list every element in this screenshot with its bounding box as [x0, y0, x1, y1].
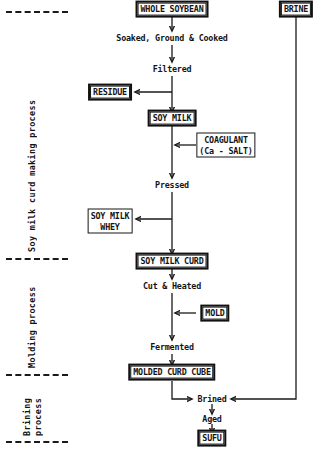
node-soy-milk: SOY MILK — [150, 112, 195, 125]
node-mold: MOLD — [202, 307, 227, 320]
node-whole-soybean: WHOLE SOYBEAN — [138, 3, 207, 16]
node-fermented: Fermented — [150, 343, 194, 352]
node-soy-milk-curd: SOY MILK CURD — [138, 255, 207, 268]
node-soy-milk-whey-line1: SOY MILK — [91, 211, 130, 222]
node-coagulant-line2: (Ca - SALT) — [199, 145, 252, 156]
node-residue: RESIDUE — [90, 86, 130, 99]
section-label-brining-line2: process — [33, 384, 43, 436]
node-soy-milk-whey: SOY MILK WHEY — [88, 209, 133, 234]
node-coagulant: COAGULANT (Ca - SALT) — [196, 133, 255, 158]
node-brined: Brined — [197, 395, 226, 404]
node-soy-milk-whey-line2: WHEY — [91, 221, 130, 232]
section-label-brining-line1: Brining — [22, 384, 32, 436]
node-pressed: Pressed — [155, 181, 189, 190]
node-cut-and-heated: Cut & Heated — [143, 282, 201, 291]
section-separator-molding — [6, 258, 68, 260]
section-separator-brining — [6, 374, 68, 376]
node-coagulant-line1: COAGULANT — [199, 135, 252, 146]
node-brine: BRINE — [281, 3, 311, 16]
section-label-molding: Molding process — [27, 276, 37, 368]
node-soaked-ground-cooked: Soaked, Ground & Cooked — [116, 34, 227, 43]
section-separator-bottom — [6, 441, 68, 443]
node-aged: Aged — [202, 415, 221, 424]
node-filtered: Filtered — [153, 65, 192, 74]
node-sufu: SUFU — [199, 432, 224, 445]
flowchart-diagram: Soy milk curd making process Molding pro… — [0, 0, 323, 449]
section-label-soy-milk-curd: Soy milk curd making process — [27, 46, 37, 252]
section-separator-top — [6, 11, 68, 13]
node-molded-curd-cube: MOLDED CURD CUBE — [130, 366, 213, 379]
